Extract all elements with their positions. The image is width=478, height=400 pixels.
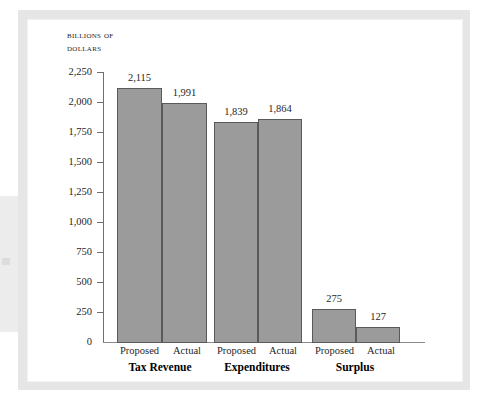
y-tick-1500 [97, 162, 104, 163]
y-tick-label-1250-wrap: 1,250 [44, 186, 92, 198]
y-tick-label-1000: 1,000 [48, 216, 92, 227]
y-tick-label-1750: 1,750 [48, 126, 92, 137]
y-tick-250 [97, 312, 104, 313]
x-label-surplus-proposed: Proposed [307, 345, 362, 356]
bar-chart-plot: Billions of dollars 2,250 2,000 1,750 1,… [0, 0, 478, 400]
bar-surplus-proposed[interactable] [312, 309, 356, 343]
y-tick-label-2000: 2,000 [48, 96, 92, 107]
x-label-tax-revenue-proposed: Proposed [112, 345, 167, 356]
y-tick-2250 [97, 72, 104, 73]
y-tick-label-2000-wrap: 2,000 [44, 96, 92, 108]
y-axis-title-line-1: Billions of [67, 29, 197, 42]
y-tick-label-2250-wrap: 2,250 [44, 66, 92, 78]
y-tick-2000 [97, 102, 104, 103]
y-tick-1250 [97, 192, 104, 193]
y-tick-label-1250: 1,250 [48, 186, 92, 197]
bar-value-surplus-actual: 127 [356, 311, 400, 322]
y-tick-label-250: 250 [48, 306, 92, 317]
bar-expenditures-proposed[interactable] [214, 122, 258, 343]
y-tick-label-250-wrap: 250 [44, 306, 92, 318]
bar-tax-revenue-actual[interactable] [162, 103, 207, 343]
y-tick-label-1500-wrap: 1,500 [44, 156, 92, 168]
y-tick-label-1750-wrap: 1,750 [44, 126, 92, 138]
y-tick-label-1000-wrap: 1,000 [44, 216, 92, 228]
group-label-tax-revenue: Tax Revenue [112, 361, 208, 373]
x-label-expenditures-actual: Actual [262, 345, 304, 356]
group-label-surplus: Surplus [307, 361, 403, 373]
bar-value-tax-revenue-proposed: 2,115 [117, 72, 162, 83]
y-tick-label-750-wrap: 750 [44, 246, 92, 258]
y-tick-label-2250: 2,250 [48, 66, 92, 77]
y-tick-label-1500: 1,500 [48, 156, 92, 167]
x-label-tax-revenue-actual: Actual [166, 345, 208, 356]
y-tick-label-750: 750 [48, 246, 92, 257]
bar-expenditures-actual[interactable] [258, 119, 302, 343]
bar-tax-revenue-proposed[interactable] [117, 88, 162, 343]
y-tick-label-500: 500 [48, 276, 92, 287]
x-label-surplus-actual: Actual [360, 345, 402, 356]
bar-value-expenditures-actual: 1,864 [258, 103, 302, 114]
y-tick-label-500-wrap: 500 [44, 276, 92, 288]
bar-value-surplus-proposed: 275 [312, 293, 356, 304]
y-tick-label-0: 0 [48, 336, 92, 347]
group-label-expenditures: Expenditures [209, 361, 305, 373]
bar-value-expenditures-proposed: 1,839 [214, 106, 258, 117]
y-axis-spine [103, 72, 104, 342]
y-axis-title-line-2: dollars [67, 42, 197, 55]
figure-root: Billions of dollars 2,250 2,000 1,750 1,… [0, 0, 478, 400]
y-tick-500 [97, 282, 104, 283]
y-tick-1750 [97, 132, 104, 133]
y-axis-title: Billions of dollars [67, 29, 197, 55]
y-tick-label-0-wrap: 0 [44, 336, 92, 348]
y-tick-750 [97, 252, 104, 253]
bar-value-tax-revenue-actual: 1,991 [162, 87, 207, 98]
y-tick-1000 [97, 222, 104, 223]
x-label-expenditures-proposed: Proposed [209, 345, 264, 356]
bar-surplus-actual[interactable] [356, 327, 400, 343]
